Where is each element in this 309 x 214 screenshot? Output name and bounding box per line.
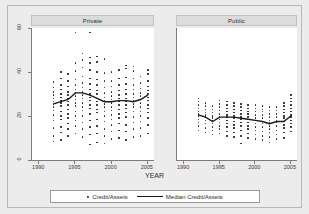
x-axis-line-private	[31, 160, 154, 161]
x-tick-label-public: 1995	[208, 164, 230, 170]
x-tick-label-public: 2005	[279, 164, 301, 170]
y-tick-mark	[28, 28, 31, 29]
legend-item-median: Median Credit/Assets	[137, 194, 223, 200]
y-tick-mark	[28, 72, 31, 73]
median-line	[177, 28, 297, 160]
median-line	[32, 28, 154, 160]
x-tick-label-private: 1995	[63, 164, 85, 170]
panel-title-private: Private	[31, 15, 154, 26]
legend-item-scatter: Credit/Assets	[87, 194, 128, 200]
y-tick-label: 0	[16, 153, 22, 165]
legend: Credit/Assets Median Credit/Assets	[50, 190, 260, 203]
y-tick-label: 40	[16, 65, 22, 77]
plot-area-public	[176, 28, 297, 160]
x-tick-label-private: 2000	[100, 164, 122, 170]
panel-title-public: Public	[176, 15, 297, 26]
y-tick-label: 60	[16, 21, 22, 33]
panel-title-public-label: Public	[228, 18, 245, 24]
y-tick-label: 20	[16, 109, 22, 121]
scatter-marker-icon	[87, 196, 89, 198]
line-marker-icon	[137, 196, 163, 198]
y-tick-mark	[28, 116, 31, 117]
legend-label-median: Median Credit/Assets	[166, 194, 223, 200]
legend-label-scatter: Credit/Assets	[92, 194, 128, 200]
x-axis-line-public	[176, 160, 297, 161]
x-tick-label-public: 1990	[172, 164, 194, 170]
x-tick-label-private: 1990	[27, 164, 49, 170]
x-tick-label-public: 2000	[243, 164, 265, 170]
figure-canvas: Private Public 6040200199019952000200519…	[0, 0, 309, 214]
x-axis-title: YEAR	[0, 172, 309, 179]
plot-area-private	[31, 28, 154, 160]
x-tick-label-private: 2005	[136, 164, 158, 170]
panel-title-private-label: Private	[83, 18, 102, 24]
